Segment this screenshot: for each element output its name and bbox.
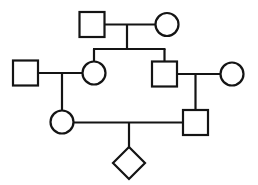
person-diamond-great-grandchild[interactable]: [113, 147, 145, 179]
person-circle-grandmother[interactable]: [156, 13, 179, 36]
generation-2-group: [13, 61, 244, 111]
person-square-grandson[interactable]: [183, 110, 208, 135]
person-square-son[interactable]: [152, 62, 177, 87]
sibship-generation-2-group: [93, 49, 166, 62]
generation-3-group: [51, 110, 209, 147]
person-circle-granddaughter[interactable]: [51, 111, 74, 134]
person-square-son-in-law-left[interactable]: [13, 61, 38, 86]
generation-1-group: [80, 12, 179, 49]
person-circle-daughter[interactable]: [83, 62, 106, 85]
pedigree-diagram: [0, 0, 258, 185]
pedigree-canvas: [0, 0, 258, 185]
generation-4-group: [113, 147, 145, 179]
person-square-grandfather[interactable]: [80, 12, 105, 37]
person-circle-daughter-in-law-right[interactable]: [221, 63, 244, 86]
